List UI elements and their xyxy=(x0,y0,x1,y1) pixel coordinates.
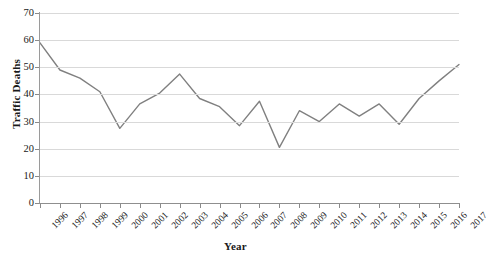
x-tick-mark xyxy=(319,204,320,208)
x-tick-mark xyxy=(100,204,101,208)
x-tick-label: 2013 xyxy=(389,210,410,231)
gridline xyxy=(40,149,459,150)
x-tick-mark xyxy=(220,204,221,208)
x-tick-mark xyxy=(140,204,141,208)
x-tick-mark xyxy=(200,204,201,208)
x-axis-line xyxy=(39,203,460,204)
x-tick-label: 2007 xyxy=(269,210,290,231)
y-tick-label: 70 xyxy=(4,8,34,18)
x-tick-label: 2014 xyxy=(409,210,430,231)
x-tick-mark xyxy=(419,204,420,208)
data-series-traffic-deaths xyxy=(40,13,459,203)
x-tick-mark xyxy=(60,204,61,208)
x-tick-mark xyxy=(80,204,81,208)
x-tick-mark xyxy=(439,204,440,208)
x-tick-label: 2015 xyxy=(429,210,450,231)
x-tick-mark xyxy=(240,204,241,208)
gridline xyxy=(40,94,459,95)
x-tick-label: 1999 xyxy=(109,210,130,231)
x-tick-label: 2009 xyxy=(309,210,330,231)
x-tick-label: 2002 xyxy=(169,210,190,231)
x-tick-label: 2016 xyxy=(449,210,470,231)
x-tick-mark xyxy=(259,204,260,208)
x-tick-mark xyxy=(399,204,400,208)
x-tick-label: 2004 xyxy=(209,210,230,231)
x-tick-mark xyxy=(459,204,460,208)
x-tick-mark xyxy=(359,204,360,208)
x-tick-label: 2001 xyxy=(149,210,170,231)
y-tick-label: 0 xyxy=(4,198,34,208)
x-tick-mark xyxy=(299,204,300,208)
gridline xyxy=(40,40,459,41)
x-tick-label: 1997 xyxy=(70,210,91,231)
x-tick-label: 2011 xyxy=(349,210,369,230)
gridline xyxy=(40,176,459,177)
x-tick-label: 2010 xyxy=(329,210,350,231)
x-tick-mark xyxy=(339,204,340,208)
gridline xyxy=(40,122,459,123)
y-axis-line xyxy=(39,12,40,204)
x-tick-label: 1998 xyxy=(89,210,110,231)
x-tick-label: 2008 xyxy=(289,210,310,231)
x-tick-label: 2012 xyxy=(369,210,390,231)
x-tick-label: 2003 xyxy=(189,210,210,231)
x-tick-mark xyxy=(160,204,161,208)
gridline xyxy=(40,13,459,14)
x-tick-mark xyxy=(180,204,181,208)
y-tick-label: 10 xyxy=(4,171,34,181)
plot-area xyxy=(40,13,459,203)
gridline xyxy=(40,67,459,68)
x-tick-label: 1996 xyxy=(50,210,71,231)
x-tick-mark xyxy=(279,204,280,208)
x-tick-mark xyxy=(120,204,121,208)
x-axis-title: Year xyxy=(0,240,471,252)
x-tick-label: 2005 xyxy=(229,210,250,231)
y-axis-title: Traffic Deaths xyxy=(10,34,22,154)
x-tick-mark xyxy=(379,204,380,208)
x-tick-label: 2017 xyxy=(469,210,489,231)
x-tick-mark xyxy=(40,204,41,208)
x-tick-label: 2000 xyxy=(129,210,150,231)
x-tick-label: 2006 xyxy=(249,210,270,231)
